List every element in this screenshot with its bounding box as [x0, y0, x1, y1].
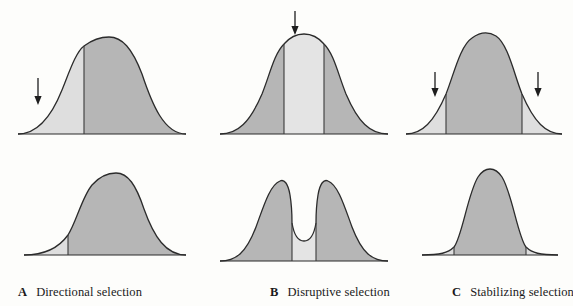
curve-light-region-right — [522, 94, 562, 134]
panel-a-letter: A — [18, 285, 27, 299]
panel-b-letter: B — [270, 285, 278, 299]
panel-a-before-chart — [10, 16, 200, 141]
curve-dark-region-right — [324, 44, 388, 134]
panel-c-label: Stabilizing selection — [470, 285, 573, 299]
curve-light-region-left — [406, 94, 446, 134]
panel-c-before-chart — [400, 16, 573, 141]
curve-dark-region-left — [220, 44, 284, 134]
panel-a-caption: ADirectional selection — [18, 285, 142, 300]
curve-dark-region — [68, 173, 186, 255]
panel-a-label: Directional selection — [36, 285, 142, 299]
panel-b-label: Disruptive selection — [287, 285, 389, 299]
panel-c-caption: CStabilizing selection — [452, 285, 573, 300]
selection-arrow-icon — [34, 78, 41, 105]
panel-c-after-chart — [400, 159, 573, 264]
panel-b-disruptive — [212, 6, 397, 271]
panel-b-after-chart — [212, 161, 397, 271]
curve-dark-region-right — [316, 181, 388, 261]
curve-dark-region — [446, 33, 522, 134]
curve-light-region-center — [284, 34, 324, 134]
panel-b-before-chart — [212, 6, 397, 141]
curve-dark-region — [84, 37, 186, 134]
panel-a-directional — [10, 16, 200, 264]
panel-c-stabilizing — [400, 16, 573, 264]
selection-arrow-icon — [291, 11, 298, 35]
curve-light-region-valley — [292, 223, 316, 261]
selection-arrow-icon-left — [431, 72, 438, 97]
panel-c-letter: C — [452, 285, 461, 299]
selection-arrow-icon-right — [534, 72, 541, 97]
panel-a-after-chart — [10, 159, 200, 264]
panel-b-caption: BDisruptive selection — [270, 285, 390, 300]
curve-dark-region-left — [220, 181, 292, 261]
selection-modes-figure: ADirectional selection BDisruptive selec… — [0, 0, 573, 306]
curve-dark-region — [454, 169, 526, 255]
